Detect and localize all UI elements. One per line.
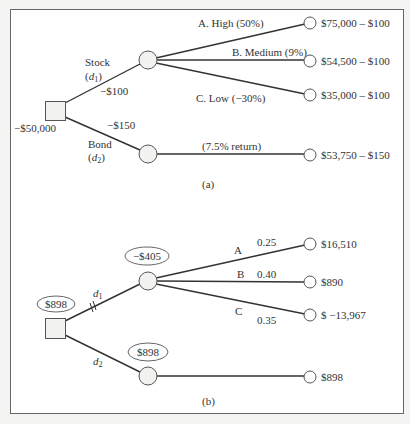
b-payoff-a: $16,510 [321, 238, 357, 250]
b-terminal-node-c [304, 309, 316, 321]
b-outcome-a-label: A [234, 244, 242, 256]
d2-expected-value: $898 [137, 346, 160, 358]
b-terminal-node-d2 [304, 371, 316, 383]
payoff-b: $54,500 – $100 [321, 55, 390, 67]
b-outcome-c-prob: 0.35 [257, 314, 277, 326]
bond-chance-node [139, 145, 157, 163]
b-payoff-b: $890 [321, 276, 344, 288]
d2-chance-node [139, 367, 157, 385]
b-outcome-b-prob: 0.40 [257, 268, 277, 280]
outcome-a-label: A. High (50%) [198, 17, 264, 30]
bond-branch-label: Bond [88, 138, 112, 150]
decision-value: $898 [45, 298, 68, 310]
payoff-a: $75,000 – $100 [321, 17, 390, 29]
payoff-c: $35,000 – $100 [321, 89, 390, 101]
b-terminal-node-b [304, 276, 316, 288]
b-payoff-d2: $898 [321, 371, 344, 383]
outcome-c-label: C. Low (−30%) [196, 92, 266, 105]
d1-expected-value: −$405 [133, 250, 162, 262]
bond-cost-label: −$150 [107, 119, 136, 131]
decision-tree-figure: −$50,000 Stock (d1) −$100 −$150 Bond (d2… [0, 0, 410, 424]
b-payoff-c: $ −13,967 [321, 309, 366, 321]
panel-b-caption: (b) [202, 395, 215, 408]
stock-branch-var: (d1) [85, 70, 102, 84]
bond-outcome-label: (7.5% return) [202, 140, 262, 153]
b-outcome-b-line [157, 281, 304, 282]
outcome-b-label: B. Medium (9%) [232, 46, 307, 59]
b-decision-node-square [46, 319, 66, 339]
decision-node-square [46, 102, 66, 121]
stock-chance-node [139, 51, 157, 69]
b-terminal-node-a [304, 238, 316, 250]
bond-branch-var: (d2) [88, 151, 105, 165]
stock-cost-label: −$100 [100, 85, 129, 97]
payoff-bond: $53,750 – $150 [321, 149, 390, 161]
d1-chance-node [139, 272, 157, 290]
initial-investment-label: −$50,000 [14, 122, 56, 134]
b-outcome-c-label: C [235, 305, 242, 317]
panel-a-caption: (a) [202, 178, 215, 191]
terminal-node-c [304, 89, 316, 101]
stock-branch-label: Stock [85, 56, 111, 68]
b-outcome-b-label: B [237, 268, 244, 280]
figure-frame [11, 10, 404, 414]
terminal-node-a [304, 17, 316, 29]
terminal-node-bond [304, 149, 316, 161]
b-outcome-a-prob: 0.25 [257, 236, 277, 248]
